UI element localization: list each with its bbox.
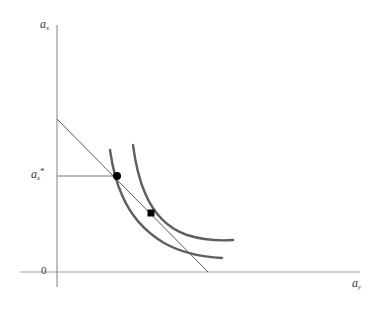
- x-axis-label-subscript: y: [358, 283, 361, 291]
- economics-indifference-curve-figure: ax ay ax* 0: [0, 0, 391, 318]
- y-tick-label-superscript: *: [40, 166, 45, 176]
- equilibrium-point-2: [148, 210, 155, 217]
- origin-label: 0: [41, 265, 47, 276]
- y-axis-tick-label: ax*: [31, 168, 45, 180]
- y-axis-label-subscript: x: [46, 24, 49, 32]
- indifference-curve-1: [110, 150, 222, 258]
- indifference-curve-2: [133, 145, 233, 240]
- y-axis-label: ax: [40, 18, 49, 30]
- plot-canvas: [0, 0, 391, 318]
- equilibrium-point-1: [113, 172, 121, 180]
- x-axis-label: ay: [352, 277, 361, 289]
- budget-line: [57, 119, 208, 272]
